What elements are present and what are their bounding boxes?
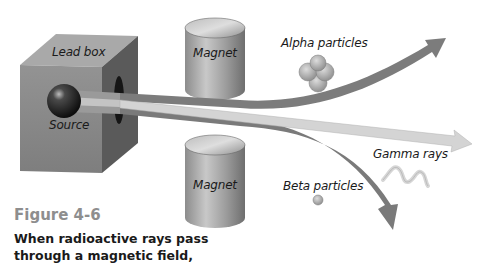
beta-particle-icon	[313, 195, 323, 205]
figure-title: Figure 4-6	[14, 206, 101, 224]
label-source: Source	[49, 118, 89, 132]
beta-beam-arrow	[120, 106, 398, 230]
caption-line: When radioactive rays pass	[14, 230, 214, 247]
alpha-particle-icon	[299, 55, 334, 92]
label-alpha-particles: Alpha particles	[281, 36, 367, 50]
radiation-beams	[120, 38, 472, 230]
diagram-canvas	[0, 0, 493, 269]
gamma-wave-icon	[383, 167, 428, 186]
label-beta-particles: Beta particles	[283, 179, 363, 193]
figure-caption: When radioactive rays pass through a mag…	[14, 230, 214, 264]
label-gamma-rays: Gamma rays	[373, 147, 448, 161]
label-magnet-bottom: Magnet	[193, 178, 237, 192]
label-magnet-top: Magnet	[193, 46, 237, 60]
source-sphere-icon	[47, 84, 81, 118]
radioactivity-diagram: Lead box Source Magnet Magnet Alpha part…	[0, 0, 493, 269]
gamma-beam-arrow	[120, 100, 472, 152]
label-lead-box: Lead box	[52, 45, 105, 59]
caption-line: through a magnetic field,	[14, 247, 214, 264]
